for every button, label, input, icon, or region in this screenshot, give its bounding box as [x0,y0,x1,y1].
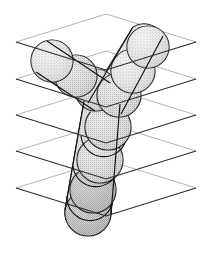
sphere-chain-plane-diagram [0,0,212,254]
plane-1-far [16,14,196,42]
sphere-left-1 [31,40,73,82]
figure-root: Y-branch tubular object represented as a… [0,0,212,254]
